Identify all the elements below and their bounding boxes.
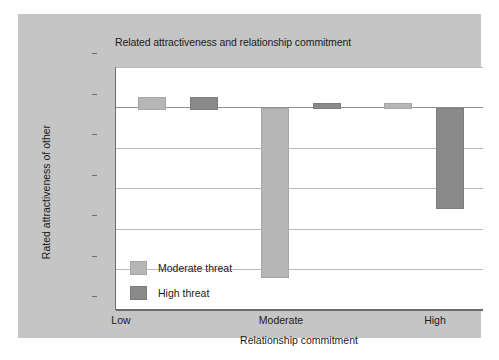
x-axis-tick-label: Moderate — [259, 314, 303, 326]
gridline — [116, 188, 483, 189]
chart-title: Related attractiveness and relationship … — [115, 36, 351, 48]
y-axis-tick-mark — [92, 296, 97, 297]
zero-line — [116, 107, 483, 109]
y-axis-tick-mark — [92, 94, 97, 95]
bar[interactable] — [190, 97, 218, 109]
legend-label-high-threat: High threat — [158, 287, 209, 299]
x-axis-tick-label: High — [424, 314, 446, 326]
gridline — [116, 229, 483, 230]
legend-item[interactable]: Moderate threat — [130, 261, 232, 274]
legend-swatch-moderate-threat — [130, 261, 147, 275]
x-axis-title: Relationship commitment — [115, 334, 483, 346]
y-axis-tick-mark — [92, 256, 97, 257]
y-axis-tick-mark — [92, 134, 97, 135]
bar[interactable] — [261, 108, 289, 278]
gridline — [116, 67, 483, 68]
x-axis-tick-label: Low — [111, 314, 130, 326]
y-axis-tick-mark — [92, 215, 97, 216]
legend: Moderate threat High threat — [130, 261, 232, 311]
y-axis-tick-mark — [92, 53, 97, 54]
chart-panel: Related attractiveness and relationship … — [18, 14, 481, 338]
bar[interactable] — [436, 108, 464, 209]
bar[interactable] — [313, 103, 341, 109]
figure: Related attractiveness and relationship … — [0, 0, 499, 360]
y-axis-title: Rated attractiveness of other — [40, 92, 52, 292]
y-axis-tick-mark — [92, 175, 97, 176]
bar[interactable] — [384, 103, 412, 109]
legend-label-moderate-threat: Moderate threat — [158, 262, 232, 274]
legend-swatch-high-threat — [130, 286, 147, 300]
bar[interactable] — [138, 97, 166, 109]
legend-item[interactable]: High threat — [130, 286, 232, 299]
gridline — [116, 148, 483, 149]
